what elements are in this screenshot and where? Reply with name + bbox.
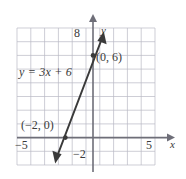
x-tick-label-minus-5: −5: [15, 139, 28, 151]
point-label-x-intercept: (−2, 0): [21, 119, 54, 131]
y-axis-label: y: [101, 25, 106, 36]
y-axis-arrow: [89, 14, 97, 22]
y-axis: [89, 14, 97, 172]
point-marker-x-intercept: [63, 135, 68, 140]
point-label-y-intercept: (0, 6): [96, 51, 122, 63]
grid-lines: [17, 28, 155, 165]
coordinate-plane: [0, 0, 186, 179]
y-tick-label-8: 8: [74, 27, 80, 39]
equation-label: y = 3x + 6: [19, 66, 72, 78]
x-tick-label-5: 5: [146, 139, 152, 151]
point-marker-y-intercept: [91, 53, 96, 58]
x-axis-label: x: [170, 139, 175, 150]
y-tick-label-minus-2: −2: [73, 148, 86, 160]
graph-figure: y = 3x + 6 (0, 6) (−2, 0) 8 −2 −5 5 y x: [0, 0, 186, 179]
line-arrow-down: [52, 151, 61, 164]
